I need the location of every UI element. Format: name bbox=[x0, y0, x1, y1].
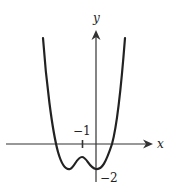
y-axis-label: y bbox=[92, 11, 100, 25]
function-graph: y x −1 −2 bbox=[0, 0, 179, 192]
x-tick-label: −1 bbox=[73, 124, 91, 138]
function-curve bbox=[43, 38, 125, 169]
x-axis-label: x bbox=[157, 137, 164, 151]
y-value-label: −2 bbox=[100, 171, 118, 185]
